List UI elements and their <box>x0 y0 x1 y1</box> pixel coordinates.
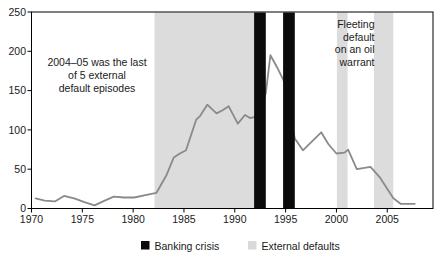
y-tick-label: 50 <box>14 163 26 175</box>
y-tick-label: 100 <box>8 124 26 136</box>
legend-swatch-external-defaults <box>248 241 257 250</box>
x-tick-label: 1990 <box>223 213 247 225</box>
x-tick-label: 1980 <box>121 213 145 225</box>
x-tick-label: 2000 <box>325 213 349 225</box>
oil-warrant-note-line: on an oil <box>335 43 375 55</box>
legend: Banking crisisExternal defaults <box>141 240 340 252</box>
y-tick-label: 250 <box>8 6 26 18</box>
legend-label: External defaults <box>262 240 340 252</box>
x-tick-label: 2005 <box>376 213 400 225</box>
external-defaults-note-line: default episodes <box>59 82 135 94</box>
chart-page: 19701975198019851990199520002005 0501001… <box>0 0 441 263</box>
external-defaults-note: 2004–05 was the lastof 5 externaldefault… <box>47 56 146 94</box>
legend-swatch-banking-crisis <box>141 241 150 250</box>
oil-warrant-note-line: default <box>343 31 375 43</box>
y-axis-ticks: 050100150200250 <box>8 6 31 215</box>
x-tick-label: 1995 <box>274 213 298 225</box>
x-tick-label: 1970 <box>20 213 44 225</box>
legend-label: Banking crisis <box>155 240 220 252</box>
external-defaults-note-line: of 5 external <box>68 69 126 81</box>
y-tick-label: 150 <box>8 84 26 96</box>
line-chart: 19701975198019851990199520002005 0501001… <box>0 0 441 263</box>
x-axis-ticks: 19701975198019851990199520002005 <box>20 209 399 225</box>
banking-crisis-band <box>254 13 266 209</box>
y-tick-label: 200 <box>8 45 26 57</box>
oil-warrant-note-line: Fleeting <box>337 18 375 30</box>
x-tick-label: 1975 <box>71 213 95 225</box>
y-tick-label: 0 <box>20 202 26 214</box>
banking-crisis-band <box>283 13 295 209</box>
external-default-band <box>374 13 393 209</box>
oil-warrant-note: Fleetingdefaulton an oilwarrant <box>335 18 375 68</box>
external-defaults-note-line: 2004–05 was the last <box>47 56 146 68</box>
oil-warrant-note-line: warrant <box>338 56 374 68</box>
banking-crisis-bands <box>254 13 295 209</box>
x-tick-label: 1985 <box>172 213 196 225</box>
